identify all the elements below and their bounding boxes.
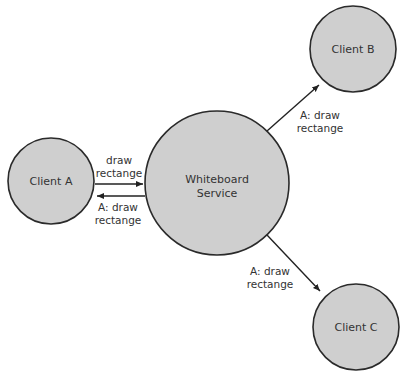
- whiteboard-diagram: Client A Whiteboard Service Client B Cli…: [0, 0, 413, 381]
- edge-label-line2: rectange: [96, 167, 143, 179]
- node-service-label-line1: Whiteboard: [185, 173, 249, 186]
- node-client-a-label: Client A: [30, 175, 73, 188]
- node-client-c: Client C: [313, 284, 399, 370]
- edge-label-line1: A: draw: [98, 201, 138, 213]
- edge-label-line2: rectange: [247, 278, 294, 290]
- node-service-label-line2: Service: [197, 187, 238, 200]
- node-client-c-label: Client C: [334, 321, 377, 334]
- edge-label-line2: rectange: [95, 214, 142, 226]
- edge-label-line1: A: draw: [300, 109, 340, 121]
- edge-label-service-to-client-c: A: draw rectange: [247, 265, 294, 290]
- node-client-a: Client A: [8, 138, 94, 224]
- edge-label-client-a-to-service: draw rectange: [96, 154, 143, 179]
- edge-label-line2: rectange: [297, 122, 344, 134]
- node-whiteboard-service: Whiteboard Service: [145, 111, 289, 255]
- edge-label-service-to-client-b: A: draw rectange: [297, 109, 344, 134]
- edge-label-service-to-client-a: A: draw rectange: [95, 201, 142, 226]
- node-client-b: Client B: [310, 6, 396, 92]
- node-client-b-label: Client B: [332, 43, 375, 56]
- edge-label-line1: A: draw: [250, 265, 290, 277]
- edge-label-line1: draw: [106, 154, 132, 166]
